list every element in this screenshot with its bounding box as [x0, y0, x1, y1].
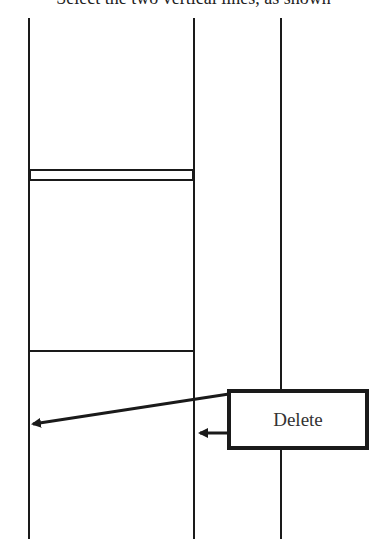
delete-label: Delete	[229, 391, 367, 448]
arrow-to-left-line	[33, 394, 229, 424]
diagram-canvas	[0, 0, 387, 539]
top-horizontal-double-line[interactable]	[30, 170, 193, 180]
